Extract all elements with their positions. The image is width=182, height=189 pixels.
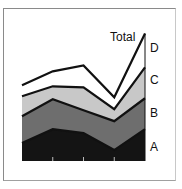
label-b: B: [150, 107, 158, 119]
label-a: A: [150, 141, 158, 153]
stacked-area-chart: [0, 0, 182, 189]
label-d: D: [150, 42, 159, 54]
label-c: C: [150, 74, 159, 86]
label-total: Total: [110, 31, 135, 43]
